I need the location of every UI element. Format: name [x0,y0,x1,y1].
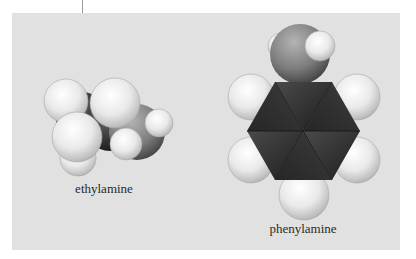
ethylamine-model [44,78,173,176]
ethylamine-label: ethylamine [75,181,133,197]
phenylamine-model [228,24,380,220]
molecule-models [0,0,416,259]
phenylamine-label: phenylamine [269,221,336,237]
